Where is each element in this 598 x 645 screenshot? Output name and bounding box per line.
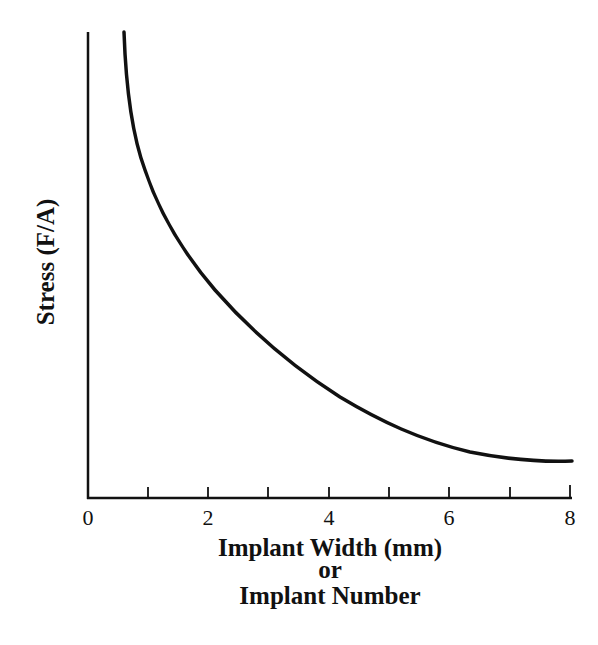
x-tick-label-4: 4: [324, 505, 335, 530]
stress-chart: 0 2 4 6 8 Implant Width (mm) or Implant …: [0, 0, 598, 645]
x-tick-label-0: 0: [83, 505, 94, 530]
x-axis-title-line3: Implant Number: [239, 582, 420, 609]
x-tick-label-2: 2: [203, 505, 214, 530]
y-axis-title: Stress (F/A): [32, 199, 60, 326]
x-axis-title-line2: or: [318, 556, 342, 583]
x-tick-label-6: 6: [444, 505, 455, 530]
x-ticks: [148, 485, 570, 498]
stress-curve: [124, 32, 572, 461]
x-tick-label-8: 8: [565, 505, 576, 530]
